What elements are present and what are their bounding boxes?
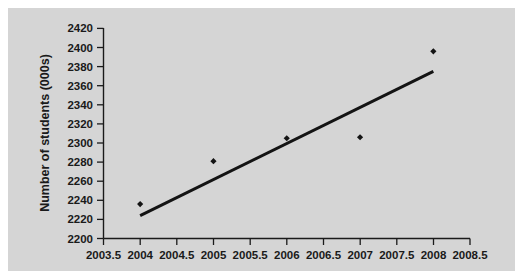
x-tick-label: 2004 <box>127 249 153 261</box>
y-tick-label: 2400 <box>67 42 93 54</box>
scatter-chart: Number of students (000s) 2200 2220 2240… <box>0 0 523 279</box>
trend-line <box>140 71 433 215</box>
data-point-marker <box>137 201 143 207</box>
y-axis-title: Number of students (000s) <box>38 54 52 212</box>
y-tick-label: 2240 <box>67 194 93 206</box>
x-tick-label: 2008 <box>421 249 447 261</box>
x-tick-label: 2005 <box>201 249 227 261</box>
y-tick-label: 2340 <box>67 99 93 111</box>
data-points <box>137 48 436 207</box>
y-tick-label: 2420 <box>67 22 93 34</box>
y-tick-label: 2200 <box>67 233 93 245</box>
x-tick-label: 2004.5 <box>159 249 195 261</box>
y-axis-ticks <box>97 28 104 238</box>
x-tick-label: 2005.5 <box>233 249 269 261</box>
x-axis-tick-labels: 2003.5 2004 2004.5 2005 2005.5 2006 2006… <box>86 249 488 261</box>
x-tick-label: 2007.5 <box>379 249 415 261</box>
x-tick-label: 2003.5 <box>86 249 122 261</box>
y-tick-label: 2360 <box>67 80 93 92</box>
y-tick-label: 2260 <box>67 175 93 187</box>
data-point-marker <box>284 135 290 141</box>
y-tick-label: 2280 <box>67 156 93 168</box>
x-tick-label: 2008.5 <box>452 249 488 261</box>
data-point-marker <box>357 134 363 140</box>
x-tick-label: 2006 <box>274 249 300 261</box>
y-tick-label: 2380 <box>67 61 93 73</box>
x-tick-label: 2006.5 <box>306 249 342 261</box>
y-axis-tick-labels: 2200 2220 2240 2260 2280 2300 2320 2340 … <box>67 22 93 244</box>
y-tick-label: 2220 <box>67 213 93 225</box>
x-tick-label: 2007 <box>347 249 373 261</box>
x-axis-ticks <box>104 239 471 246</box>
data-point-marker <box>430 48 436 54</box>
chart-figure: Number of students (000s) 2200 2220 2240… <box>0 0 523 279</box>
y-tick-label: 2300 <box>67 137 93 149</box>
data-point-marker <box>210 158 216 164</box>
y-tick-label: 2320 <box>67 118 93 130</box>
